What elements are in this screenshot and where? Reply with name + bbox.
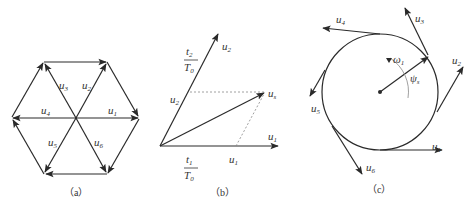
edge-top-left bbox=[12, 63, 43, 117]
panel-b-dashed bbox=[190, 92, 264, 146]
label-a-u2: u2 bbox=[82, 79, 92, 93]
label-a-u1: u1 bbox=[108, 104, 117, 118]
caption-c: （c） bbox=[367, 184, 391, 195]
label-a-u6: u6 bbox=[94, 136, 104, 150]
caption-a: （a） bbox=[64, 187, 88, 198]
label-psi: ψs bbox=[410, 72, 420, 86]
edge-bottom-left bbox=[13, 120, 44, 174]
label-a-u3: u3 bbox=[59, 79, 69, 93]
label-b-u2: u2 bbox=[222, 40, 232, 54]
space-vector-diagram: u1 u2 u3 u4 u5 u6 （a） u2 us u1 u1 u2 t2 … bbox=[0, 0, 468, 201]
label-omega: ω1 bbox=[393, 53, 404, 67]
tangent-u2 bbox=[437, 67, 463, 112]
label-a-u4: u4 bbox=[41, 104, 51, 118]
panel-b-vectors bbox=[160, 34, 278, 146]
label-b-u1-prime: u1 bbox=[229, 153, 238, 167]
panel-a-labels: u1 u2 u3 u4 u5 u6 （a） bbox=[41, 79, 117, 198]
label-b-u2-prime: u2 bbox=[170, 93, 180, 107]
tangent-u4 bbox=[323, 28, 380, 34]
tangent-u6 bbox=[332, 126, 362, 174]
fraction-t1-den: T0 bbox=[184, 169, 194, 183]
circle-center bbox=[378, 90, 382, 94]
projection-u1 bbox=[236, 94, 264, 146]
label-b-us: us bbox=[268, 87, 277, 101]
label-c-u2: u2 bbox=[452, 54, 462, 68]
label-b-u1: u1 bbox=[268, 130, 277, 144]
vector-u2 bbox=[76, 64, 106, 118]
caption-b: （b） bbox=[210, 187, 235, 198]
rotation-arrow-icon bbox=[386, 58, 392, 63]
label-c-u3: u3 bbox=[415, 12, 425, 26]
panel-b-labels: u2 us u1 u1 u2 t2 T0 t1 T0 （b） bbox=[170, 40, 277, 198]
label-c-u6: u6 bbox=[366, 161, 376, 175]
panel-c-labels: u1 u2 u3 u4 u5 u6 ω1 ψs （c） bbox=[311, 12, 462, 195]
fraction-t2-den: T0 bbox=[184, 61, 194, 75]
label-c-u1: u1 bbox=[432, 140, 441, 154]
label-a-u5: u5 bbox=[48, 136, 58, 150]
label-c-u4: u4 bbox=[336, 13, 346, 27]
fraction-t1-num: t1 bbox=[186, 153, 193, 167]
label-c-u5: u5 bbox=[311, 102, 321, 116]
fraction-t2-num: t2 bbox=[186, 45, 193, 59]
panel-a-hexagon bbox=[12, 62, 139, 174]
edge-bottom-right bbox=[108, 119, 139, 173]
